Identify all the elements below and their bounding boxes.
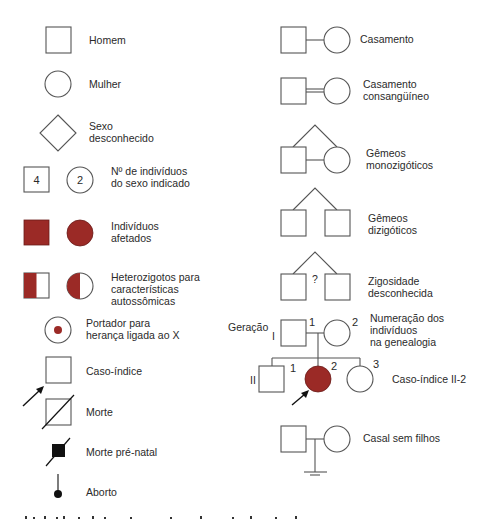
proband-square-icon [46,357,71,383]
consang-female-icon [324,78,350,104]
pedigree-legend: Homem Mulher Sexo desconhecido 4 2 Nº de… [0,0,479,519]
mz-female-icon [324,147,350,173]
legend-consanguineous-marriage: Casamento consangüíneo [281,78,429,104]
label-numeracao-2: indivíduos [370,324,417,336]
label-afetados-1: Indivíduos [111,220,159,232]
affected-square-icon [24,220,49,245]
label-morte: Morte [86,406,113,418]
gen-I-male-icon [281,320,306,346]
label-hetero-3: autossômicas [111,295,175,307]
legend-x-carrier: Portador para herança ligada ao X [45,317,179,343]
label-II3: 3 [373,358,379,370]
label-portador-2: herança ligada ao X [86,329,179,341]
label-mulher: Mulher [89,78,122,90]
gen-II-2-affected-female-icon [305,366,331,392]
dz-square-1-icon [281,210,306,236]
uz-twin-lines-icon [293,252,337,274]
hetero-square-half-icon [24,273,37,298]
label-II2: 2 [331,360,337,372]
label-uz-2: desconhecida [368,287,433,299]
legend-proband: Caso-índice [23,357,142,406]
label-num-line1: Nº de indivíduos [111,165,187,177]
male-square-icon [46,27,71,53]
dz-twin-lines-icon [293,188,337,210]
uz-question-mark: ? [312,273,318,285]
female-circle-icon [45,71,71,97]
affected-circle-icon [67,220,93,246]
childless-female-icon [324,426,350,452]
marriage-male-icon [281,27,306,53]
diamond-icon [40,115,76,151]
label-numeracao-1: Numeração dos [370,312,444,324]
label-II1: 1 [290,362,296,374]
label-hetero-1: Heterozigotos para [111,271,200,283]
legend-affected: Indivíduos afetados [24,220,159,246]
mz-male-icon [281,147,306,173]
label-dz-1: Gêmeos [368,212,408,224]
square-count: 4 [33,174,39,186]
legend-stillbirth: Morte pré-natal [46,438,157,466]
legend-unknown-sex: Sexo desconhecido [40,115,154,151]
label-caso-indice-ii2: Caso-índice II-2 [392,373,466,385]
label-mz-2: monozigóticos [366,159,433,171]
label-gen-I: I [272,330,275,342]
legend-abortion: Aborto [54,474,117,498]
abortion-dot-icon [54,490,62,498]
legend-numbering-example: Geração I 1 2 II 1 2 3 Numeração dos ind… [228,312,466,405]
label-afetados-2: afetados [111,232,151,244]
label-consang-1: Casamento [363,78,417,90]
label-morte-pre-natal: Morte pré-natal [86,446,157,458]
stillbirth-slash-icon [46,438,70,466]
uz-square-1-icon [281,274,306,300]
legend-heterozygotes: Heterozigotos para características autos… [24,271,200,307]
label-homem: Homem [89,34,126,46]
legend-childless-couple: Casal sem filhos [281,426,440,475]
legend-marriage: Casamento [281,27,414,53]
label-consang-2: consangüíneo [363,90,429,102]
carrier-dot-icon [54,326,62,334]
mz-twin-lines-icon [293,125,337,147]
label-casamento: Casamento [360,33,414,45]
legend-female: Mulher [45,71,122,97]
label-I2: 2 [352,316,358,328]
label-aborto: Aborto [86,486,117,498]
label-hetero-2: características [111,283,179,295]
legend-dizygotic-twins: Gêmeos dizigóticos [281,188,417,236]
gen-II-3-female-icon [347,366,373,392]
dz-square-2-icon [325,210,350,236]
label-casal-sem-filhos: Casal sem filhos [363,432,440,444]
circle-count: 2 [77,174,83,186]
label-uz-1: Zigosidade [368,275,420,287]
label-I1: 1 [309,316,315,328]
label-num-line2: do sexo indicado [111,177,190,189]
legend-number-of-individuals: 4 2 Nº de indivíduos do sexo indicado [24,165,190,193]
uz-square-2-icon [325,274,350,300]
proband-arrow-shaft-ii2 [292,394,305,405]
hetero-circle-half-icon [67,273,80,299]
label-dz-2: dizigóticos [368,224,417,236]
gen-II-1-male-icon [259,366,284,392]
label-caso-indice: Caso-índice [86,365,142,377]
consang-male-icon [281,78,306,104]
proband-arrow-shaft [23,390,40,406]
marriage-female-icon [324,27,350,53]
legend-deceased: Morte [42,395,113,429]
legend-male: Homem [46,27,126,53]
gen-I-female-icon [324,320,350,346]
label-sexo: Sexo [89,120,113,132]
legend-monozygotic-twins: Gêmeos monozigóticos [281,125,433,173]
label-gen-II: II [250,374,256,386]
label-numeracao-3: na genealogia [370,336,436,348]
label-desconhecido: desconhecido [89,132,154,144]
legend-unknown-zygosity: ? Zigosidade desconhecida [281,252,433,300]
childless-male-icon [281,426,306,452]
label-portador-1: Portador para [86,317,150,329]
label-geracao: Geração [228,321,268,333]
label-mz-1: Gêmeos [366,147,406,159]
